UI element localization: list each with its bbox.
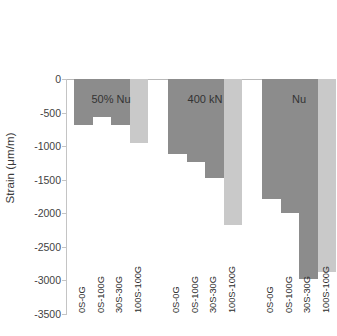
group-label: Nu [262,93,336,105]
y-axis-tick-label: 0 [55,73,61,85]
y-axis-tick-label: -1500 [34,174,61,186]
y-axis-tick [62,180,67,181]
x-axis-category-label: 0S-0G [76,286,87,313]
y-axis-tick [62,247,67,248]
x-axis-category-label: 100S-100G [226,266,237,313]
y-axis-tick [62,213,67,214]
x-axis-category-label: 0S-100G [283,276,294,313]
bar [168,79,187,154]
x-axis-category-label: 100S-100G [132,266,143,313]
x-axis-category-label: 30S-30G [207,276,218,313]
plot-area: 0-500-1000-1500-2000-2500-3000-3500 0S-0… [66,79,322,314]
y-axis-tick-label: -1000 [34,140,61,152]
y-axis-tick [62,113,67,114]
y-axis-title: Strain (μm/m) [0,0,20,336]
x-axis-category-label: 30S-30G [301,276,312,313]
x-axis-category-label: 0S-100G [189,276,200,313]
bar [130,79,149,143]
y-axis-tick [62,314,67,315]
y-axis-tick-label: -2500 [34,241,61,253]
x-axis-category-label: 0S-100G [95,276,106,313]
group-label: 50% Nu [74,93,148,105]
y-axis-tick [62,79,67,80]
bar [299,79,318,279]
bar [187,79,206,162]
y-axis-tick-label: -500 [40,107,61,119]
y-axis-tick [62,280,67,281]
group-label: 400 kN [168,93,242,105]
y-axis-line [66,79,67,314]
y-axis-tick-label: -3000 [34,274,61,286]
y-axis-tick-label: -2000 [34,207,61,219]
x-axis-category-label: 0S-0G [264,286,275,313]
x-axis-category-label: 100S-100G [320,266,331,313]
y-axis-tick-label: -3500 [34,308,61,320]
x-axis-category-label: 0S-0G [170,286,181,313]
bar-chart: Strain (μm/m) 0-500-1000-1500-2000-2500-… [0,0,337,336]
x-axis-category-label: 30S-30G [113,276,124,313]
y-axis-tick [62,146,67,147]
bar [318,79,337,272]
